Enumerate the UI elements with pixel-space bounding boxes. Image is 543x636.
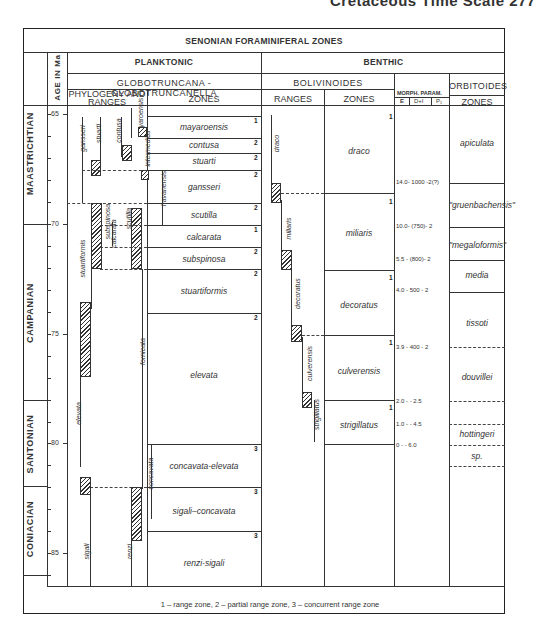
tick: [47, 575, 51, 576]
range-link: [100, 225, 147, 226]
planktonic-header: PLANKTONIC: [67, 57, 261, 67]
zone-megaloformis: "megaloformis": [449, 240, 505, 250]
species-culverensis: culverensis: [306, 339, 313, 389]
species-decoratus: decoratus: [294, 271, 301, 316]
zone-type: 2: [254, 270, 258, 277]
divider: [324, 89, 325, 586]
species-elevata: elevata: [75, 394, 82, 434]
tick: [47, 312, 51, 313]
species-gansseri: gansseri: [79, 114, 86, 164]
zone-type: 2: [254, 171, 258, 178]
param-row: 14.0- 1000 -2(?): [396, 179, 439, 185]
zone-type: 1: [389, 113, 393, 120]
param-col-p: P₁: [436, 98, 442, 104]
zone-hottingeri: hottingeri: [449, 429, 505, 439]
zone-type: 2: [254, 139, 258, 146]
divider: [449, 401, 505, 402]
divider: [67, 52, 68, 586]
zone-type: 3: [254, 445, 258, 452]
divider: [23, 224, 47, 225]
divider: [147, 153, 261, 154]
age-tick-65: 65: [51, 110, 59, 117]
divider: [449, 227, 505, 228]
divider: [324, 335, 394, 336]
species-contusa: contusa: [115, 111, 122, 151]
zone-type: 2: [254, 314, 258, 321]
zone-concavata-elevata: concavata-elevata: [147, 461, 261, 471]
species-intermedius: intermedius: [144, 124, 151, 174]
divider: [449, 73, 450, 586]
divider: [449, 183, 505, 184]
age-tick-80: 80: [51, 439, 59, 446]
tick: [47, 136, 51, 137]
zone-type: 2: [254, 248, 258, 255]
divider: [449, 466, 505, 467]
divider: [147, 487, 261, 488]
tick: [47, 487, 51, 488]
range-overlap: [91, 160, 101, 176]
tick: [47, 422, 51, 423]
tick: [63, 553, 67, 554]
tick: [63, 334, 67, 335]
zone-type: 2: [254, 154, 258, 161]
tick: [47, 465, 51, 466]
stage-maastrichtian: MAASTRICHTIAN: [25, 115, 35, 195]
range-stuartiformis: [91, 269, 92, 309]
tick: [47, 246, 51, 247]
zone-type: 1: [389, 339, 393, 346]
divider: [47, 586, 505, 587]
range-overlap: [131, 208, 142, 269]
range-overlap: [131, 487, 142, 541]
divider: [23, 400, 47, 401]
age-tick-70: 70: [51, 220, 59, 227]
divider: [449, 445, 505, 446]
zone-culverensis: culverensis: [324, 366, 394, 376]
tick: [47, 531, 51, 532]
stage-coniacian: CONIACIAN: [25, 489, 35, 569]
param-col-e: E: [400, 98, 404, 104]
divider: [47, 52, 48, 586]
page-header: Cretaceous Time Scale 277: [330, 0, 536, 9]
tick: [47, 180, 51, 181]
ranges-header: RANGES: [262, 94, 324, 104]
zone-contusa: contusa: [147, 140, 261, 150]
range-overlap: [122, 145, 132, 161]
zone-mayaroensis: mayaroensis: [147, 122, 261, 132]
tick: [47, 553, 51, 554]
divider: [147, 313, 261, 314]
stage-campanian: CAMPANIAN: [25, 273, 35, 353]
zone-strigillatus: strigillatus: [324, 420, 394, 430]
divider: [147, 269, 261, 270]
param-row: 10.0- (750)- 2: [396, 223, 432, 229]
divider: [394, 73, 395, 586]
divider: [147, 138, 261, 139]
zone-tissoti: tissoti: [449, 318, 505, 328]
range-sigali: [90, 487, 91, 586]
zone-media: media: [449, 270, 505, 280]
zone-type: 1: [389, 404, 393, 411]
divider: [449, 292, 505, 293]
tick: [47, 224, 51, 225]
divider: [147, 225, 261, 226]
param-row: 3.9 - 400 - 2: [396, 344, 428, 350]
age-axis-label: AGE IN Ma: [53, 43, 62, 113]
range-overlap: [91, 203, 102, 269]
range-link: [100, 247, 147, 248]
species-stuarti: stuarti: [95, 114, 102, 154]
divider: [261, 52, 262, 586]
divider: [147, 444, 261, 445]
tick: [63, 224, 67, 225]
zone-type: 3: [254, 488, 258, 495]
age-tick-75: 75: [51, 330, 59, 337]
zone-draco: draco: [324, 146, 394, 156]
zone-stuartiformis: stuartiformis: [147, 286, 261, 296]
param-row: 0 - - 6.0: [396, 442, 417, 448]
range-fornicata: [142, 269, 143, 489]
divider: [147, 116, 261, 117]
divider: [409, 97, 410, 105]
orbitoides-genus: ORBITOIDES: [449, 81, 505, 91]
param-row: 2.0 - - 2.5: [396, 398, 422, 404]
legend: 1 – range zone, 2 – partial range zone, …: [100, 600, 440, 609]
tick: [47, 509, 51, 510]
range-overlap: [291, 325, 302, 342]
